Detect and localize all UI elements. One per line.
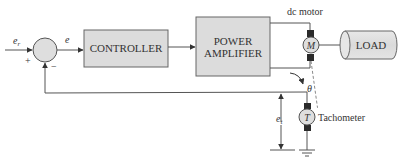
reference-signal-label: er xyxy=(13,35,20,48)
error-signal-label: e xyxy=(65,34,70,45)
load-label: LOAD xyxy=(356,39,387,51)
feedback-signal-label: et xyxy=(276,113,283,126)
amplifier-to-motor-wire-bottom xyxy=(270,61,310,68)
theta-rotation-arrow xyxy=(290,73,303,84)
controller-block: CONTROLLER xyxy=(84,30,168,67)
motor-symbol: M xyxy=(306,40,316,51)
load-block: LOAD xyxy=(340,31,397,59)
reference-input: er + xyxy=(5,35,32,66)
dc-motor-control-block-diagram: er + − e CONTROLLER POWER AMPLIFIER M dc… xyxy=(0,0,399,166)
tachometer: T xyxy=(299,103,315,131)
summing-junction xyxy=(33,38,57,62)
dc-motor-label: dc motor xyxy=(287,6,323,17)
minus-sign: − xyxy=(51,61,57,72)
dc-motor: M xyxy=(303,30,319,61)
ground-symbol xyxy=(299,131,315,156)
power-amplifier-label-line1: POWER xyxy=(214,35,253,47)
amplifier-to-motor-wire-top xyxy=(270,23,310,30)
tachometer-label: Tachometer xyxy=(318,112,366,123)
power-amplifier-label-line2: AMPLIFIER xyxy=(204,47,263,59)
power-amplifier-block: POWER AMPLIFIER xyxy=(196,17,270,76)
tachometer-brush-top xyxy=(304,103,311,109)
tachometer-brush-bottom xyxy=(304,125,311,131)
motor-brush-top xyxy=(307,30,314,37)
plus-sign: + xyxy=(25,55,31,66)
controller-label: CONTROLLER xyxy=(90,42,163,54)
theta-label: θ xyxy=(307,83,312,94)
motor-brush-bottom xyxy=(307,54,314,61)
